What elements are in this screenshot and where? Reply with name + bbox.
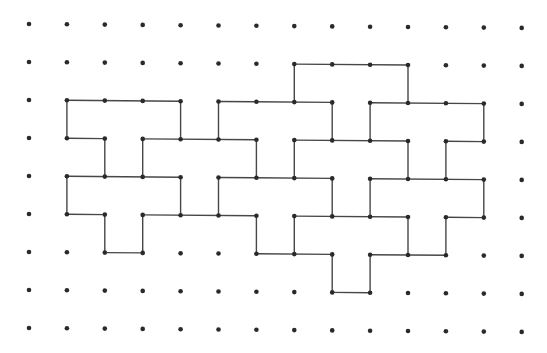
grid-dot (368, 24, 373, 29)
grid-dot (178, 23, 183, 28)
grid-dot (368, 100, 373, 105)
grid-dot (178, 289, 183, 294)
grid-dot (140, 251, 145, 256)
grid-dot (368, 328, 373, 333)
grid-dot (330, 328, 335, 333)
grid-dot (330, 100, 335, 105)
grid-dot (27, 98, 32, 103)
grid-dot (140, 213, 145, 218)
grid-dot (103, 212, 108, 217)
grid-dot (254, 214, 259, 219)
grid-dot (444, 139, 449, 144)
grid-dot (368, 214, 373, 219)
grid-dot (330, 24, 335, 29)
grid-dot (27, 22, 32, 27)
grid-dot (519, 292, 524, 297)
grid-dot (178, 327, 183, 332)
grid-dot (216, 289, 221, 294)
grid-dot (65, 22, 70, 27)
grid-dot (444, 215, 449, 220)
grid-dot (406, 139, 411, 144)
grid-dot (65, 326, 70, 331)
grid-dot (406, 101, 411, 106)
grid-dot (103, 136, 108, 141)
grid-dot (27, 250, 32, 255)
grid-dot (444, 253, 449, 258)
grid-dot (482, 329, 487, 334)
grid-dot (292, 252, 297, 257)
horizontal-edge (219, 102, 333, 103)
grid-dot (482, 253, 487, 258)
grid-dot (368, 138, 373, 143)
grid-dot (406, 215, 411, 220)
grid-dot (444, 329, 449, 334)
grid-dot (103, 98, 108, 103)
grid-dot (444, 63, 449, 68)
grid-dot (103, 174, 108, 179)
grid-dot (406, 291, 411, 296)
grid-dot (368, 290, 373, 295)
grid-dot (178, 61, 183, 66)
grid-dot (140, 23, 145, 28)
grid-dot (292, 214, 297, 219)
grid-dot (368, 62, 373, 67)
horizontal-edge (143, 215, 257, 216)
grid-dot (178, 137, 183, 142)
grid-dot (519, 26, 524, 31)
grid-dot (519, 64, 524, 69)
grid-dot (330, 62, 335, 67)
grid-dot (482, 291, 487, 296)
grid-dot (292, 62, 297, 67)
grid-dot (482, 101, 487, 106)
grid-dot (27, 326, 32, 331)
grid-dot (519, 140, 524, 145)
grid-dot (178, 99, 183, 104)
grid-dot (216, 213, 221, 218)
grid-dot (254, 176, 259, 181)
grid-dot (406, 329, 411, 334)
horizontal-edge (67, 100, 181, 101)
horizontal-edge (294, 64, 408, 65)
grid-dot (292, 100, 297, 105)
grid-dot (65, 136, 70, 141)
dot-grid-figure (0, 0, 547, 353)
grid-dot (103, 60, 108, 65)
horizontal-edge (294, 216, 408, 217)
grid-dot (519, 216, 524, 221)
grid-dot (330, 214, 335, 219)
grid-dot (406, 177, 411, 182)
grid-dot (292, 176, 297, 181)
grid-dot (27, 60, 32, 65)
grid-dot (330, 252, 335, 257)
grid-dot (65, 250, 70, 255)
grid-dot (216, 99, 221, 104)
grid-dot (254, 138, 259, 143)
horizontal-edge (219, 178, 333, 179)
grid-dot (482, 63, 487, 68)
grid-dot (65, 288, 70, 293)
grid-dot (292, 328, 297, 333)
grid-dot (482, 139, 487, 144)
grid-dot (444, 291, 449, 296)
grid-dot (254, 252, 259, 257)
grid-dot (254, 100, 259, 105)
grid-dot (368, 252, 373, 257)
grid-dot (519, 254, 524, 259)
grid-dot (216, 327, 221, 332)
grid-dot (216, 175, 221, 180)
grid-dot (292, 24, 297, 29)
grid-dot (519, 178, 524, 183)
grid-dot (103, 22, 108, 27)
grid-dot (216, 23, 221, 28)
grid-dot (330, 176, 335, 181)
grid-dot (406, 63, 411, 68)
grid-dot (482, 25, 487, 30)
grid-dot (140, 137, 145, 142)
dot-grid-svg (0, 0, 547, 353)
grid-dot (368, 176, 373, 181)
horizontal-edge (370, 179, 484, 180)
grid-dot (216, 137, 221, 142)
grid-dot (444, 177, 449, 182)
horizontal-edge (294, 140, 408, 141)
grid-dot (140, 99, 145, 104)
